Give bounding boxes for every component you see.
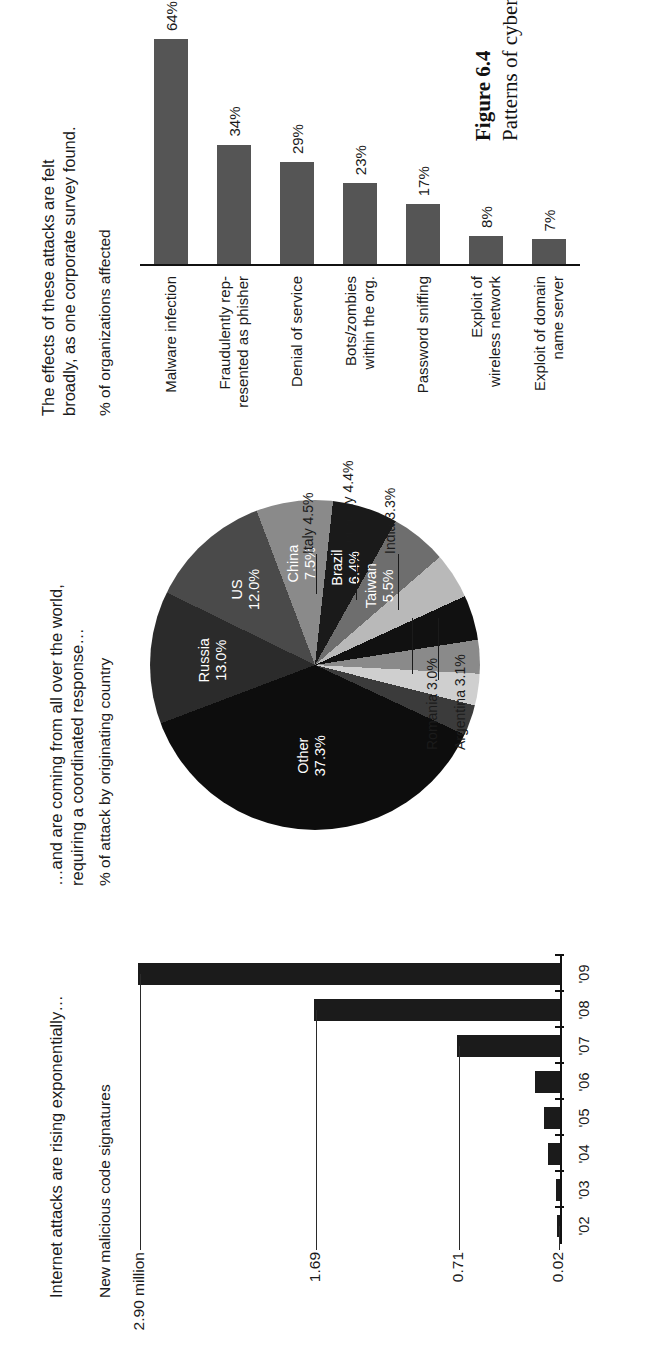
effects-value-label: 29% xyxy=(289,124,306,154)
signatures-value-label: 0.71 xyxy=(449,1252,467,1348)
pie-callout-line xyxy=(412,618,413,674)
effects-value-label: 8% xyxy=(477,206,494,228)
figure-canvas: Internet attacks are rising exponentiall… xyxy=(0,0,665,1356)
signatures-year-label: '09 xyxy=(576,957,592,991)
panel-origin-country: …and are coming from all over the world,… xyxy=(0,456,665,926)
panel-effects-headline-line2: broadly, as one corporate survey found. xyxy=(59,16,80,416)
figure-caption-label: Figure 6.4 xyxy=(471,50,495,141)
effects-category-label: Exploit of domainname server xyxy=(531,276,567,391)
signatures-tick xyxy=(555,1099,564,1101)
signatures-bar xyxy=(138,963,560,985)
panel-signatures-headline: Internet attacks are rising exponentiall… xyxy=(46,938,67,1298)
signatures-tick xyxy=(555,991,564,993)
signatures-leader-line xyxy=(459,1046,460,1250)
panel-signatures-axis-title: New malicious code signatures xyxy=(96,1084,114,1298)
signatures-bar xyxy=(314,999,560,1021)
pie-slice-label: US12.0% xyxy=(229,569,263,610)
effects-bar xyxy=(217,145,251,264)
pie-callout-label: Argentina 3.1% xyxy=(452,654,468,750)
effects-bar-row: Malware infection64% xyxy=(154,20,188,266)
signatures-leader-line xyxy=(559,1226,560,1250)
signatures-tick xyxy=(555,1063,564,1065)
signatures-tick xyxy=(555,955,564,957)
signatures-tick xyxy=(555,1135,564,1137)
signatures-year-label: '04 xyxy=(576,1137,592,1171)
effects-category-label: Bots/zombieswithin the org. xyxy=(342,276,378,369)
effects-bar xyxy=(406,204,440,264)
effects-value-label: 7% xyxy=(540,210,557,232)
signatures-tick xyxy=(555,1027,564,1029)
pie-slice-label: Russia13.0% xyxy=(196,638,230,682)
pie-callout-line xyxy=(398,554,399,610)
figure-caption: Figure 6.4 Patterns of cyber threats. xyxy=(470,0,524,141)
signatures-year-label: '02 xyxy=(576,1209,592,1243)
signatures-year-label: '05 xyxy=(576,1101,592,1135)
effects-category-label: Denial of service xyxy=(288,276,306,387)
panel-origin-headline-line1: …and are coming from all over the world, xyxy=(46,486,67,886)
pie-callout-line xyxy=(316,554,317,594)
effects-bar-row: Fraudulently rep-resented as phisher34% xyxy=(217,20,251,266)
pie-slice-label: Brazil6.4% xyxy=(329,549,363,585)
effects-bar-row: Exploit of domainname server7% xyxy=(532,20,566,266)
signatures-bar xyxy=(548,1143,560,1165)
pie-slice-label: Other37.3% xyxy=(295,735,329,776)
effects-value-label: 64% xyxy=(163,1,180,31)
panel-signatures: Internet attacks are rising exponentiall… xyxy=(0,926,665,1356)
effects-value-label: 34% xyxy=(226,106,243,136)
panel-origin-axis-title: % of attack by originating country xyxy=(96,658,114,886)
panel-effects-headline-line1: The effects of these attacks are felt xyxy=(38,16,59,416)
signatures-year-label: '07 xyxy=(576,1029,592,1063)
effects-bar-row: Denial of service29% xyxy=(280,20,314,266)
pie-callout-label: Romania 3.0% xyxy=(424,658,440,750)
signatures-tick xyxy=(555,1171,564,1173)
effects-bar xyxy=(469,236,503,264)
effects-category-label: Malware infection xyxy=(162,276,180,393)
pie-slice-label: Taiwan5.5% xyxy=(363,563,397,608)
signatures-value-label: 0.02 xyxy=(549,1252,567,1348)
signatures-bar xyxy=(535,1071,560,1093)
signatures-year-label: '08 xyxy=(576,993,592,1027)
panel-origin-headline-line2: requiring a coordinated response… xyxy=(67,486,88,886)
signatures-bar xyxy=(457,1035,560,1057)
effects-value-label: 17% xyxy=(414,166,431,196)
figure-caption-text: Patterns of cyber threats. xyxy=(498,0,522,141)
panel-effects-headline: The effects of these attacks are felt br… xyxy=(38,16,80,416)
effects-bar xyxy=(154,39,188,264)
signatures-year-label: '06 xyxy=(576,1065,592,1099)
effects-bar xyxy=(343,183,377,264)
panel-effects: The effects of these attacks are felt br… xyxy=(0,0,665,456)
effects-category-label: Password sniffing xyxy=(414,276,432,393)
effects-bar-row: Bots/zombieswithin the org.23% xyxy=(343,20,377,266)
effects-category-label: Fraudulently rep-resented as phisher xyxy=(216,276,252,408)
effects-category-label: Exploit ofwireless network xyxy=(468,276,504,387)
effects-bar xyxy=(280,162,314,264)
signatures-bar xyxy=(556,1179,560,1201)
signatures-value-label: 1.69 xyxy=(306,1252,324,1348)
signatures-leader-line xyxy=(140,974,141,1250)
panel-effects-axis-title: % of organizations affected xyxy=(96,229,114,416)
signatures-leader-line xyxy=(316,1010,317,1250)
signatures-value-label: 2.90 million xyxy=(130,1252,148,1348)
signatures-plot-area: '02'03'04'05'06'07'08'09 2.90 million1.6… xyxy=(132,956,562,1244)
effects-bar-row: Password sniffing17% xyxy=(406,20,440,266)
pie-callout-label: India 3.3% xyxy=(382,488,398,554)
effects-bar xyxy=(532,239,566,264)
pie-callout-line xyxy=(356,554,357,600)
signatures-bar xyxy=(544,1107,560,1129)
signatures-tick xyxy=(555,1207,564,1209)
panel-origin-headline: …and are coming from all over the world,… xyxy=(46,486,88,886)
signatures-year-label: '03 xyxy=(576,1173,592,1207)
signatures-baseline xyxy=(560,956,562,1244)
effects-value-label: 23% xyxy=(352,145,369,175)
pie-callout-label: Italy 4.5% xyxy=(300,493,316,554)
pie-callout-label: Germany 4.4% xyxy=(340,461,356,554)
